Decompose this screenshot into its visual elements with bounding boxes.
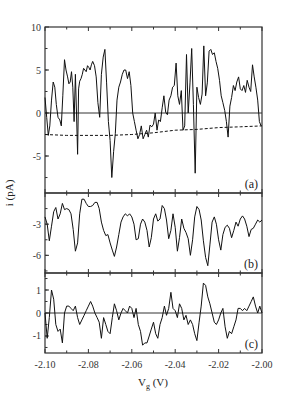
x-axis-ticks: -2.10-2.08-2.06-2.04-2.02-2.00 bbox=[35, 359, 273, 370]
x-tick-label: -2.08 bbox=[78, 359, 99, 370]
chart: 1050-5(a)-3-6(b)10-1(c) -2.10-2.08-2.06-… bbox=[0, 0, 287, 411]
y-tick-label: -3 bbox=[33, 219, 41, 230]
x-tick-label: -2.02 bbox=[208, 359, 229, 370]
panel-label: (c) bbox=[245, 337, 258, 351]
y-axis-label: i (pA) bbox=[3, 179, 16, 206]
current-trace-line bbox=[45, 46, 261, 178]
y-tick-label: -1 bbox=[33, 330, 41, 341]
x-tick-label: -2.04 bbox=[165, 359, 186, 370]
y-tick-label: 0 bbox=[36, 308, 41, 319]
y-tick-label: 1 bbox=[36, 285, 41, 296]
panel-label: (b) bbox=[244, 257, 258, 271]
panel-b: -3-6(b) bbox=[33, 193, 262, 273]
panel-label: (a) bbox=[245, 177, 258, 191]
y-tick-label: 5 bbox=[36, 65, 41, 76]
x-tick-label: -2.06 bbox=[121, 359, 142, 370]
panel-c: 10-1(c) bbox=[33, 273, 262, 353]
current-trace-line bbox=[45, 199, 262, 266]
x-tick-label: -2.00 bbox=[252, 359, 273, 370]
y-tick-label: -6 bbox=[33, 250, 41, 261]
y-tick-label: -5 bbox=[33, 151, 41, 162]
x-tick-label: -2.10 bbox=[35, 359, 56, 370]
panel-frame bbox=[45, 193, 262, 273]
panels-group: 1050-5(a)-3-6(b)10-1(c) bbox=[31, 22, 262, 354]
current-trace-line bbox=[45, 283, 262, 345]
y-tick-label: 10 bbox=[31, 22, 41, 33]
panel-a: 1050-5(a) bbox=[31, 22, 262, 194]
x-axis-label: Vg (V) bbox=[138, 376, 168, 391]
y-tick-label: 0 bbox=[36, 108, 41, 119]
